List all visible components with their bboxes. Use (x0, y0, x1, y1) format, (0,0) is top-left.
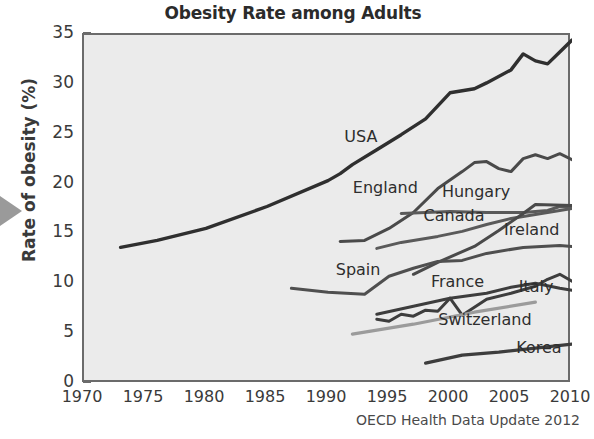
source-note: OECD Health Data Update 2012 (356, 412, 580, 428)
series-label: Korea (516, 338, 561, 357)
series-label: USA (344, 127, 377, 146)
series-label: France (431, 272, 484, 291)
series-label: Spain (336, 260, 381, 279)
series-label: England (353, 178, 418, 197)
series-label: Canada (424, 206, 485, 225)
series-label: Italy (519, 277, 554, 296)
series-label: Hungary (442, 182, 510, 201)
series-label: Ireland (504, 220, 559, 239)
series-label: Switzerland (438, 310, 531, 329)
